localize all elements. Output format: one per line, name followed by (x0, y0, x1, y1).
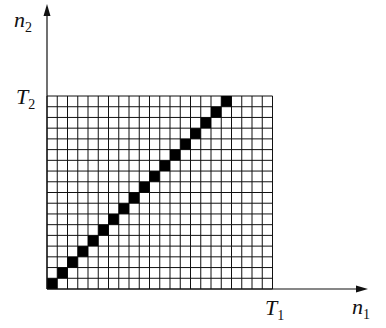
y-tick-label: T2 (16, 86, 35, 112)
diagonal-cell (150, 171, 160, 182)
y-axis-label: n2 (14, 9, 32, 35)
diagonal-cell (109, 214, 119, 225)
grid (47, 96, 273, 289)
y-axis-arrow-icon (44, 4, 51, 16)
diagonal-cell (57, 268, 67, 279)
diagonal-cell (221, 96, 231, 107)
diagonal-cell (211, 107, 221, 118)
diagonal-cell (160, 160, 170, 171)
diagonal-cell (191, 128, 201, 139)
diagonal-cell (98, 225, 108, 236)
diagonal-cell (180, 139, 190, 150)
diagonal-cell (68, 257, 78, 268)
diagonal-cell (78, 246, 88, 257)
diagonal-cell (119, 203, 129, 214)
grid-diagram (0, 0, 386, 328)
x-axis-arrow-icon (356, 286, 368, 293)
x-axis-label: n1 (352, 296, 370, 322)
diagonal-cell (47, 278, 57, 289)
diagonal-cell (201, 117, 211, 128)
diagonal-cell (129, 193, 139, 204)
x-tick-label: T1 (265, 297, 284, 323)
diagonal-cell (170, 150, 180, 161)
diagonal-cell (88, 235, 98, 246)
diagonal-cell (139, 182, 149, 193)
